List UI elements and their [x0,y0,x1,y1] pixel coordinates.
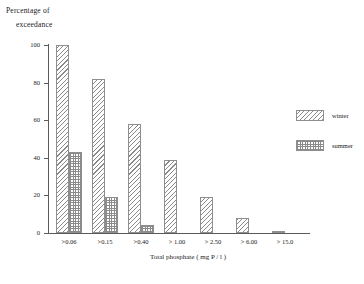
y-tick-label: 0 [16,229,40,236]
y-tick [44,83,48,84]
legend-swatch-winter [296,110,324,121]
chart-container: Percentage of exceedance 020406080100 >0… [0,0,364,284]
x-axis-line [48,233,310,234]
y-tick-label: 40 [16,154,40,161]
bar-summer-1 [105,197,118,233]
y-tick-label: 80 [16,79,40,86]
x-category-label: > 15.0 [264,238,306,245]
y-axis-line [48,44,49,234]
y-tick [44,120,48,121]
y-axis-title-line1: Percentage of [6,6,50,15]
y-tick [44,195,48,196]
bar-winter-0 [56,45,69,233]
bar-winter-3 [164,160,177,233]
legend-swatch-summer [296,140,324,151]
bar-winter-2 [128,124,141,233]
y-tick [44,233,48,234]
bar-winter-6 [272,231,285,233]
y-tick-label: 20 [16,191,40,198]
bar-summer-2 [141,225,154,233]
bar-summer-0 [69,152,82,233]
legend-label-winter: winter [332,112,349,119]
bar-winter-4 [200,197,213,233]
bar-winter-5 [236,218,249,233]
y-tick-label: 60 [16,116,40,123]
x-axis-title: Total phosphate ( mg P / l ) [150,253,226,261]
bar-winter-1 [92,79,105,233]
legend-label-summer: summer [332,142,353,149]
legend-item-summer: summer [296,140,353,151]
y-tick [44,158,48,159]
y-tick [44,45,48,46]
legend-item-winter: winter [296,110,349,121]
y-tick-label: 100 [16,41,40,48]
y-axis-title-line2: exceedance [16,20,53,29]
